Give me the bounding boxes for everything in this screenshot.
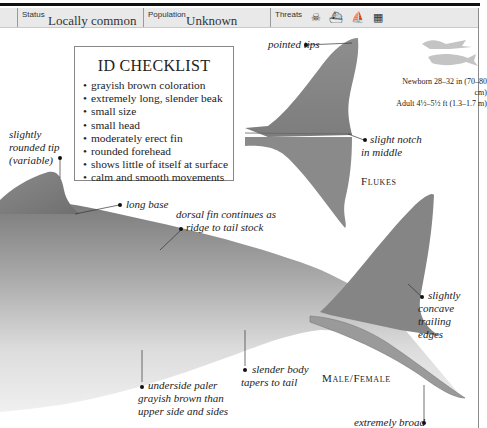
newborn-size: Newborn 28–32 in (70–80 cm) [391, 76, 487, 98]
label-long-base: long base [126, 198, 168, 211]
label-underside-2: grayish brown than [138, 392, 224, 405]
bullet-dot [118, 203, 122, 207]
flukes-illustration [245, 38, 358, 228]
id-checklist: ID CHECKLIST grayish brown coloration ex… [74, 46, 234, 181]
flukes-caption: Flukes [361, 175, 397, 187]
label-rounded-tip-1: slightly [9, 128, 41, 141]
size-info: Newborn 28–32 in (70–80 cm) Adult 4½–5½ … [391, 76, 487, 109]
label-slender-body-1: slender body [252, 363, 309, 376]
checklist-item: calm and smooth movements [83, 171, 233, 184]
label-rounded-tip-2: rounded tip [9, 141, 60, 154]
checklist-item: grayish brown coloration [83, 79, 233, 92]
checklist-item: rounded forehead [83, 145, 233, 158]
label-underside-3: upper side and sides [138, 405, 228, 418]
label-concave-4: edges [418, 328, 443, 341]
checklist-item: small head [83, 119, 233, 132]
checklist-item: small size [83, 105, 233, 118]
bullet-dot [420, 295, 424, 299]
label-dorsal-ridge-2: ridge to tail stock [186, 221, 263, 234]
checklist-item: shows little of itself at surface [83, 158, 233, 171]
bullet-dot [179, 227, 183, 231]
male-female-caption: Male/Female [322, 372, 391, 384]
label-slight-notch: slight notch [370, 133, 422, 146]
label-rounded-tip-3: (variable) [9, 154, 53, 167]
checklist-title: ID CHECKLIST [75, 57, 233, 75]
label-concave-3: trailing [418, 315, 451, 328]
label-dorsal-ridge-1: dorsal fin continues as [176, 208, 276, 221]
label-underside-1: underside paler [148, 379, 217, 392]
size-comparison-silhouettes [422, 40, 478, 66]
label-pointed-tips: pointed tips [268, 38, 320, 51]
bullet-dot [422, 421, 426, 425]
bullet-dot [140, 385, 144, 389]
adult-size: Adult 4½–5½ ft (1.3–1.7 m) [391, 98, 487, 109]
label-in-middle: in middle [361, 146, 402, 159]
label-concave-1: slightly [428, 289, 460, 302]
label-slender-body-2: tapers to tail [241, 376, 297, 389]
bullet-dot [58, 156, 62, 160]
checklist-item: extremely long, slender beak [83, 92, 233, 105]
bullet-dot [304, 43, 308, 47]
bullet-dot [363, 138, 367, 142]
label-extremely-broad: extremely broad [354, 416, 425, 428]
label-concave-2: concave [418, 302, 454, 315]
bullet-dot [243, 368, 247, 372]
checklist-item: moderately erect fin [83, 132, 233, 145]
